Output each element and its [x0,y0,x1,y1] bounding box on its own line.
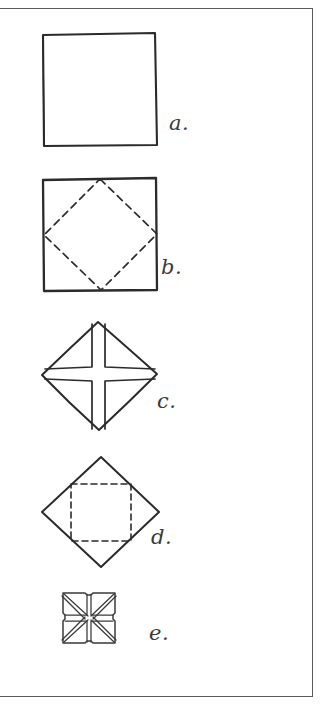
diagram-page: a. b. [0,0,331,713]
figure-c: c. [37,317,237,435]
figure-c-cross-arm-upper-left [45,324,92,369]
figure-e-art [55,587,135,665]
figure-c-label: c. [157,389,176,413]
figure-d-label: d. [151,525,172,549]
figure-c-cross-arm-lower-right [105,379,155,429]
page-frame: a. b. [0,8,313,697]
figure-b-dashed-diamond [44,179,157,290]
figure-b-art [35,171,165,299]
figure-e-label: e. [149,621,169,645]
figure-a-art [37,27,167,155]
figure-a: a. [37,27,237,155]
figure-d: d. [35,453,235,571]
figure-c-cross-arm-upper-right [105,324,155,369]
figure-d-dashed-square [71,484,131,541]
figure-b-label: b. [161,255,182,279]
figure-e: e. [55,587,255,665]
figure-b: b. [35,171,235,299]
figure-d-art [35,453,165,571]
figure-c-art [37,317,167,435]
figure-a-label: a. [169,111,189,135]
